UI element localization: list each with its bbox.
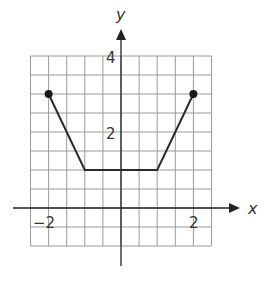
endpoint-dot [45, 90, 53, 98]
y-axis-label: y [115, 5, 126, 24]
endpoint-dot [189, 90, 197, 98]
x-axis-label: x [247, 199, 258, 218]
y-tick-label-4: 4 [106, 49, 116, 67]
x-tick-label-2: 2 [189, 214, 199, 232]
y-axis-arrow-icon [116, 29, 126, 40]
coordinate-plane: x y −2 2 2 4 [0, 0, 275, 282]
x-tick-label-neg2: −2 [33, 214, 55, 232]
x-axis-arrow-icon [229, 203, 240, 213]
y-tick-label-2: 2 [106, 125, 116, 143]
